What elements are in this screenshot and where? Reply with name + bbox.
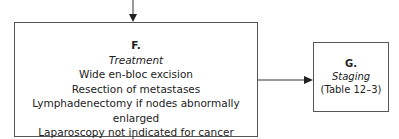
node-f-line: Lymphadenectomy if nodes abnormally enla… [15,96,257,125]
arrowhead-down-icon [129,14,137,22]
node-f-label: F. [15,38,257,53]
node-f-line: Resection of metastases [15,82,257,97]
node-g-staging: G. Staging (Table 12–3) [313,42,389,112]
node-g-title: Staging [314,70,388,83]
node-g-label: G. [314,57,388,70]
node-f-title: Treatment [15,53,257,68]
node-f-treatment: F. Treatment Wide en-bloc excision Resec… [14,22,258,137]
node-f-line: Laparoscopy not indicated for cancer [15,125,257,139]
node-g-line: (Table 12–3) [314,83,388,96]
node-f-line: Wide en-bloc excision [15,67,257,82]
arrowhead-right-icon [304,76,313,84]
